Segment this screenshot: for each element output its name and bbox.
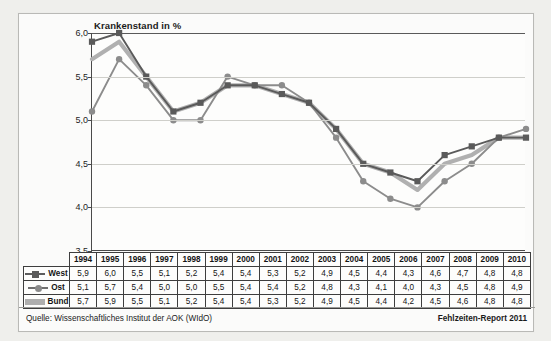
table-cell-value: 6,0	[97, 267, 124, 281]
plot-region: 6,05,55,04,54,03,5	[91, 33, 525, 251]
table-cell-value: 4,9	[503, 281, 530, 295]
data-point-ost	[116, 56, 122, 62]
table-cell-value: 5,4	[232, 267, 259, 281]
series-line-bund	[92, 42, 526, 190]
table-cell-value: 4,4	[368, 267, 395, 281]
data-point-west	[197, 100, 203, 106]
data-point-ost	[89, 108, 95, 114]
series-lines	[92, 33, 526, 251]
table-header-year: 2001	[259, 253, 286, 267]
table-header-year: 1996	[124, 253, 151, 267]
table-header-year: 2009	[476, 253, 503, 267]
data-point-west	[442, 152, 448, 158]
table-header-year: 1999	[205, 253, 232, 267]
table-row: Ost5,15,75,45,05,05,55,45,45,24,84,34,14…	[24, 281, 531, 295]
y-axis-tick-mark	[88, 120, 92, 121]
table-header-year: 2007	[422, 253, 449, 267]
table-cell-value: 5,4	[124, 281, 151, 295]
table-row: West5,96,05,55,15,25,45,45,35,24,94,54,4…	[24, 267, 531, 281]
data-point-west	[496, 135, 502, 141]
table-header-row: 1994199519961997199819992000200120022003…	[24, 253, 531, 267]
header-corner-cell	[24, 253, 70, 267]
report-note: Fehlzeiten-Report 2011	[438, 314, 527, 323]
data-point-west	[170, 108, 176, 114]
gridline	[92, 164, 525, 165]
table-cell-value: 4,3	[395, 267, 422, 281]
table-cell-value: 5,1	[151, 267, 178, 281]
table-cell-value: 5,2	[286, 267, 313, 281]
y-axis-tick-mark	[88, 77, 92, 78]
table-header-year: 2004	[341, 253, 368, 267]
table-cell-value: 5,9	[70, 267, 97, 281]
data-point-west	[333, 126, 339, 132]
source-note: Quelle: Wissenschaftliches Institut der …	[26, 314, 212, 323]
data-point-west	[252, 82, 258, 88]
chart-title: Krankenstand in %	[94, 20, 181, 31]
table-cell-value: 5,0	[151, 281, 178, 295]
data-point-ost	[387, 195, 393, 201]
table-cell-value: 4,5	[341, 267, 368, 281]
series-line-ost	[92, 59, 526, 207]
table-cell-value: 5,7	[97, 281, 124, 295]
gridline	[92, 77, 525, 78]
table-row-label-west: West	[24, 267, 70, 281]
table-header-year: 2003	[313, 253, 340, 267]
table-header-year: 1997	[151, 253, 178, 267]
table-cell-value: 5,5	[124, 267, 151, 281]
data-table-wrap: 1994199519961997199819992000200120022003…	[23, 252, 531, 309]
table-header-year: 2002	[286, 253, 313, 267]
data-point-west	[306, 100, 312, 106]
table-cell-value: 4,7	[449, 267, 476, 281]
legend-swatch-ost	[28, 283, 48, 292]
table-cell-value: 4,8	[476, 267, 503, 281]
table-header-year: 2010	[503, 253, 530, 267]
data-point-west	[414, 178, 420, 184]
table-cell-value: 4,8	[503, 267, 530, 281]
table-cell-value: 4,6	[422, 267, 449, 281]
figure-footer: Quelle: Wissenschaftliches Institut der …	[19, 307, 535, 332]
data-point-west	[116, 30, 122, 36]
data-table: 1994199519961997199819992000200120022003…	[23, 252, 531, 309]
legend-swatch-west	[25, 269, 45, 278]
y-axis-tick-mark	[88, 207, 92, 208]
table-cell-value: 5,4	[205, 267, 232, 281]
chart-area: Krankenstand in % 6,05,55,04,54,03,5	[19, 14, 535, 252]
table-cell-value: 4,5	[449, 281, 476, 295]
table-cell-value: 4,8	[476, 281, 503, 295]
table-header-year: 2008	[449, 253, 476, 267]
data-point-west	[387, 169, 393, 175]
data-point-west	[469, 143, 475, 149]
legend-label: West	[48, 269, 67, 278]
data-point-west	[279, 91, 285, 97]
table-cell-value: 5,5	[205, 281, 232, 295]
data-point-ost	[279, 82, 285, 88]
table-cell-value: 4,3	[422, 281, 449, 295]
table-cell-value: 5,2	[286, 281, 313, 295]
figure-frame: Krankenstand in % 6,05,55,04,54,03,5 199…	[18, 13, 534, 332]
table-header-year: 2005	[368, 253, 395, 267]
table-cell-value: 4,1	[368, 281, 395, 295]
table-header-year: 1994	[70, 253, 97, 267]
data-point-west	[523, 135, 529, 141]
table-cell-value: 5,4	[259, 281, 286, 295]
y-axis-tick-mark	[88, 164, 92, 165]
table-cell-value: 4,3	[341, 281, 368, 295]
data-point-ost	[441, 178, 447, 184]
table-cell-value: 5,4	[232, 281, 259, 295]
data-point-ost	[333, 134, 339, 140]
table-cell-value: 5,2	[178, 267, 205, 281]
table-cell-value: 4,8	[313, 281, 340, 295]
legend-label: Bund	[48, 297, 69, 306]
table-header-year: 2006	[395, 253, 422, 267]
table-cell-value: 5,1	[70, 281, 97, 295]
screenshot-root: Krankenstand in % 6,05,55,04,54,03,5 199…	[0, 0, 551, 341]
table-cell-value: 5,0	[178, 281, 205, 295]
table-header-year: 1995	[97, 253, 124, 267]
data-point-ost	[523, 126, 529, 132]
table-cell-value: 4,0	[395, 281, 422, 295]
table-cell-value: 4,9	[313, 267, 340, 281]
legend-swatch-bund	[25, 297, 45, 306]
gridline	[92, 207, 525, 208]
table-header-year: 1998	[178, 253, 205, 267]
table-header-year: 2000	[232, 253, 259, 267]
